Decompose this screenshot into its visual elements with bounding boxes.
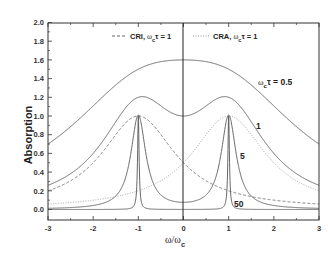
y-tick-label: 1.6 [34, 56, 44, 65]
annotation-tau-1: 1 [256, 121, 261, 131]
annotation-tau-5: 5 [240, 151, 245, 161]
x-axis-title: ω/ωc [165, 234, 185, 249]
y-tick-label: 0.8 [34, 130, 44, 139]
x-tick-label: 3 [317, 224, 321, 233]
x-tick-label: 1 [227, 224, 231, 233]
x-tick-label: -1 [135, 224, 142, 233]
annotation-tau-0-5: ωcτ = 0.5 [258, 77, 293, 89]
y-tick-label: 1.8 [34, 37, 44, 46]
y-tick-label: 0.4 [34, 168, 45, 177]
x-tick-label: -3 [45, 224, 52, 233]
legend-cri-label: CRI, ωcτ = 1 [130, 32, 171, 43]
y-tick-label: 0.6 [34, 149, 44, 158]
x-tick-label: 2 [272, 224, 276, 233]
y-tick-label: 2.0 [34, 18, 44, 27]
annotation-tau-50: 50 [234, 199, 244, 209]
legend-cra-label: CRA, ωcτ = 1 [213, 32, 258, 43]
x-tick-label: 0 [181, 224, 185, 233]
legend: CRI, ωcτ = 1 CRA, ωcτ = 1 [112, 32, 258, 43]
y-tick-label: 1.4 [34, 74, 45, 83]
y-tick-label: 1.0 [34, 112, 44, 121]
y-tick-label: 0.2 [34, 187, 44, 196]
absorption-chart: -3-2-101230.00.20.40.60.81.01.21.41.61.8… [0, 0, 328, 262]
y-tick-label: 0.0 [34, 205, 44, 214]
x-tick-label: -2 [90, 224, 97, 233]
y-tick-label: 1.2 [34, 93, 44, 102]
y-axis-title: Absorption [22, 105, 34, 164]
